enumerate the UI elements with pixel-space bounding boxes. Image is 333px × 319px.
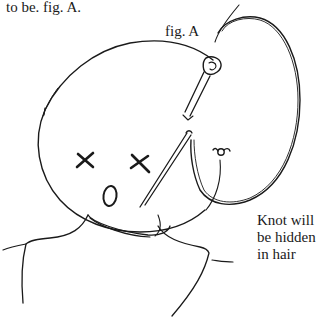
needle-exit (183, 115, 193, 120)
knot-icon (213, 148, 230, 155)
shoulder-right-edge (212, 260, 233, 262)
needle-shaft-upper (185, 72, 210, 116)
hair-stroke (44, 108, 45, 115)
x-eye-left (77, 153, 93, 167)
neck-collar (155, 215, 160, 236)
thread-loop (191, 17, 300, 205)
doll-illustration (0, 0, 333, 319)
needle-eye-inner (209, 62, 216, 70)
shoulder-right (158, 226, 209, 316)
shoulder-left-edge (3, 244, 26, 250)
x-eye-right (131, 155, 149, 172)
mouth-o (102, 185, 118, 207)
head-outline (38, 41, 213, 232)
thread-loop (194, 18, 298, 201)
shoulder-left (22, 215, 88, 303)
